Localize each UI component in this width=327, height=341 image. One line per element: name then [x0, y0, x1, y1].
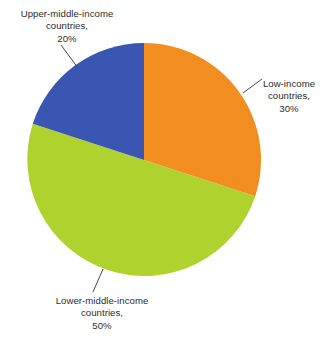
- leader-line-lower-middle-income: [93, 269, 103, 292]
- leader-line-low-income: [243, 79, 262, 93]
- pie-chart-figure: Upper-middle-income countries, 20% Low-i…: [0, 0, 327, 341]
- pie-chart-graphic: [0, 0, 327, 341]
- leader-line-upper-middle-income: [61, 45, 78, 68]
